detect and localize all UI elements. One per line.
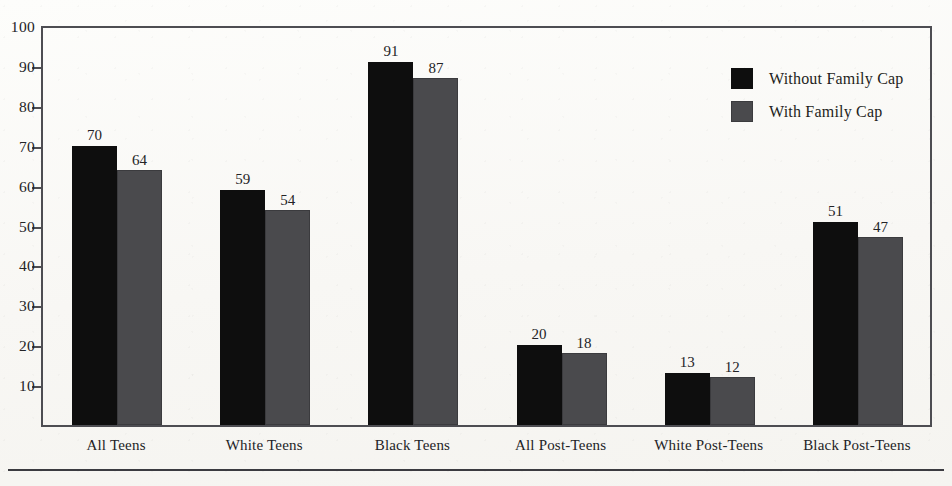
legend-item: With Family Cap <box>731 101 904 122</box>
bar-black-teens-without-family-cap: 91 <box>368 62 413 425</box>
chart-plot-frame: 706459549187201813125147 Without Family … <box>41 26 932 427</box>
figure-page: 100908070605040302010 706459549187201813… <box>0 0 952 486</box>
bar-value-label: 47 <box>873 220 888 235</box>
legend-item-label: Without Family Cap <box>769 70 904 88</box>
bar-all-post-teens-without-family-cap: 20 <box>517 345 562 425</box>
bar-value-label: 51 <box>828 204 843 219</box>
bar-value-label: 13 <box>680 355 695 370</box>
bar-value-label: 70 <box>87 128 102 143</box>
bar-value-label: 20 <box>532 327 547 342</box>
bar-black-post-teens-with-family-cap: 47 <box>858 237 903 425</box>
x-axis-category-label: All Teens <box>86 437 145 454</box>
x-axis-category-label: All Post-Teens <box>515 437 606 454</box>
legend-item-label: With Family Cap <box>769 103 882 121</box>
bar-white-teens-with-family-cap: 54 <box>265 210 310 425</box>
bar-black-post-teens-without-family-cap: 51 <box>813 222 858 425</box>
bar-value-label: 87 <box>428 61 443 76</box>
bar-value-label: 91 <box>383 44 398 59</box>
bar-value-label: 18 <box>577 336 592 351</box>
y-axis-tick-label: 90 <box>19 58 35 76</box>
x-axis-category-label: White Post-Teens <box>654 437 763 454</box>
y-axis-tick-label: 70 <box>19 138 35 156</box>
figure-bottom-rule <box>8 469 944 471</box>
x-axis-category-label: Black Post-Teens <box>803 437 911 454</box>
bar-value-label: 59 <box>235 172 250 187</box>
y-axis-tick-label: 100 <box>11 18 35 36</box>
y-axis-tick-label: 30 <box>19 297 35 315</box>
bar-all-teens-with-family-cap: 64 <box>117 170 162 425</box>
bar-all-post-teens-with-family-cap: 18 <box>562 353 607 425</box>
bar-value-label: 64 <box>132 153 147 168</box>
x-axis-category-label: Black Teens <box>375 437 450 454</box>
y-axis-tick-label: 50 <box>19 218 35 236</box>
bar-white-teens-without-family-cap: 59 <box>220 190 265 425</box>
y-axis-tick-label: 20 <box>19 337 35 355</box>
bar-black-teens-with-family-cap: 87 <box>413 78 458 425</box>
legend-swatch-icon <box>731 68 753 89</box>
chart-legend: Without Family CapWith Family Cap <box>731 68 904 122</box>
legend-swatch-icon <box>731 101 753 122</box>
bar-all-teens-without-family-cap: 70 <box>72 146 117 425</box>
bar-white-post-teens-with-family-cap: 12 <box>710 377 755 425</box>
y-axis-tick-label: 10 <box>19 377 35 395</box>
bar-value-label: 54 <box>280 193 295 208</box>
y-axis-tick-label: 40 <box>19 257 35 275</box>
bar-white-post-teens-without-family-cap: 13 <box>665 373 710 425</box>
x-axis-category-label: White Teens <box>226 437 303 454</box>
y-axis-tick-label: 80 <box>19 98 35 116</box>
bar-value-label: 12 <box>725 360 740 375</box>
y-axis-tick-label: 60 <box>19 178 35 196</box>
legend-item: Without Family Cap <box>731 68 904 89</box>
